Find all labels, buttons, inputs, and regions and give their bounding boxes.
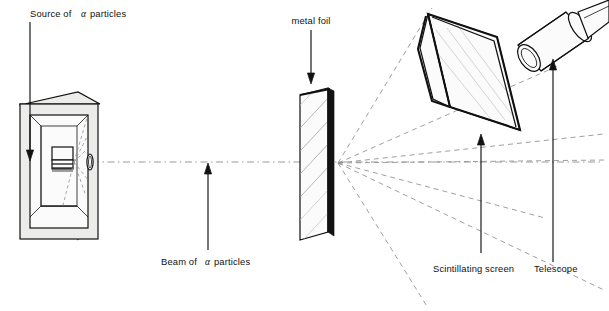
scintillating-screen: [418, 14, 520, 130]
label-beam-prefix: Beam of: [161, 256, 197, 267]
screen-leader: [477, 134, 484, 253]
foil-leader-arrowhead: [307, 73, 314, 84]
metal-foil: [289, 82, 334, 278]
label-beam-suffix: particles: [214, 256, 250, 267]
scattered-ray-up-1: [338, 8, 432, 163]
alpha-source-capsule: [52, 147, 73, 171]
label-beam-alpha-glyph: α: [205, 256, 211, 267]
source-box-top-face: [20, 92, 100, 105]
label-source-suffix: particles: [90, 8, 126, 19]
source-box-cavity: [30, 115, 88, 228]
scattered-ray-up-3: [338, 134, 604, 163]
label-scintillating-screen: Scintillating screen: [433, 263, 514, 274]
beam-leader-arrowhead: [204, 163, 211, 174]
metal-foil-edge: [328, 88, 334, 236]
label-telescope: Telescope: [534, 263, 578, 274]
label-source: Source of α particles: [30, 8, 126, 19]
label-source-prefix: Source of: [30, 8, 72, 19]
telescope: [513, 0, 609, 75]
scattered-ray-down-1: [338, 163, 545, 218]
label-metal-foil: metal foil: [291, 15, 330, 26]
screen-leader-arrowhead: [477, 134, 484, 145]
lead-source-box: [20, 92, 100, 239]
label-source-alpha-glyph: α: [81, 8, 87, 19]
label-beam: Beam of α particles: [161, 256, 250, 267]
figure-canvas: Source of α particles metal foil Beam of…: [0, 0, 609, 311]
foil-leader: [307, 30, 314, 84]
scattered-ray-forward: [338, 160, 607, 163]
alpha-scattering-figure: Source of α particles metal foil Beam of…: [0, 0, 609, 311]
beam-leader: [204, 163, 211, 250]
source-capsule-body: [52, 147, 73, 160]
